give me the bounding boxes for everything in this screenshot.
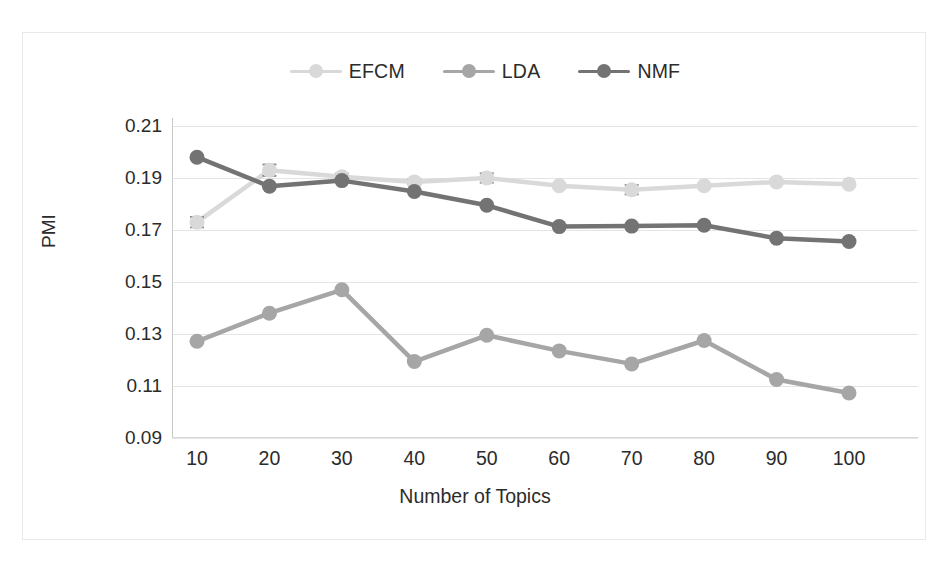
data-point: [842, 234, 857, 249]
data-point: [769, 231, 784, 246]
data-point: [190, 334, 205, 349]
series-lda: [190, 282, 857, 400]
data-point: [407, 354, 422, 369]
data-point: [479, 328, 494, 343]
data-point: [262, 179, 277, 194]
data-point: [407, 184, 422, 199]
data-point: [334, 173, 349, 188]
data-point: [552, 178, 567, 193]
data-point: [842, 386, 857, 401]
data-point: [479, 171, 494, 186]
data-point: [552, 343, 567, 358]
data-point: [552, 219, 567, 234]
data-point: [334, 282, 349, 297]
data-point: [624, 182, 639, 197]
data-point: [697, 218, 712, 233]
x-axis-title: Number of Topics: [0, 485, 950, 508]
data-point: [190, 150, 205, 165]
data-point: [769, 372, 784, 387]
data-point: [262, 163, 277, 178]
y-axis-title: PMI: [38, 214, 60, 248]
series-efcm: [190, 163, 857, 230]
data-point: [624, 356, 639, 371]
chart-plot: EFCM LDA NMF 0.210.190.170.150.130.110.0…: [0, 0, 950, 572]
data-point: [190, 215, 205, 230]
data-point: [697, 333, 712, 348]
data-point: [769, 174, 784, 189]
data-point: [262, 306, 277, 321]
series-line: [197, 290, 849, 393]
data-point: [697, 178, 712, 193]
series-line: [197, 157, 849, 241]
series-nmf: [190, 150, 857, 249]
data-point: [624, 219, 639, 234]
data-point: [842, 177, 857, 192]
data-point: [479, 198, 494, 213]
